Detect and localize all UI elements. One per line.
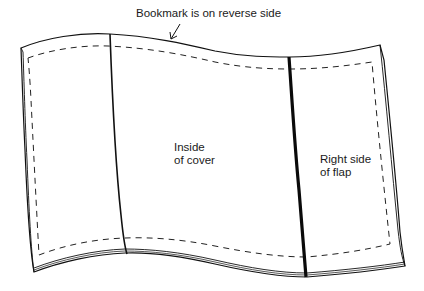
label-line: Inside — [174, 141, 215, 154]
book-cover-diagram: Bookmark is on reverse side Inside of co… — [0, 0, 424, 291]
inside-of-cover-label: Inside of cover — [174, 141, 215, 167]
label-line: of cover — [174, 154, 215, 167]
label-line: Right side — [320, 153, 371, 166]
label-line: of flap — [320, 166, 371, 179]
bookmark-callout-label: Bookmark is on reverse side — [136, 7, 281, 20]
right-side-of-flap-label: Right side of flap — [320, 153, 371, 179]
